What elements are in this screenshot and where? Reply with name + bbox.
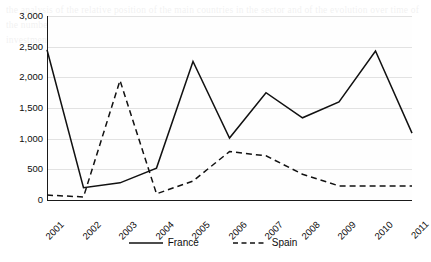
legend-line-swatch bbox=[129, 238, 163, 248]
legend-label: Spain bbox=[272, 238, 298, 248]
series-line-france bbox=[47, 50, 412, 188]
chart-legend: FranceSpain bbox=[0, 238, 426, 248]
legend-item-france[interactable]: France bbox=[129, 238, 199, 248]
legend-item-spain[interactable]: Spain bbox=[233, 238, 298, 248]
legend-line-swatch bbox=[233, 238, 267, 248]
legend-label: France bbox=[168, 238, 199, 248]
